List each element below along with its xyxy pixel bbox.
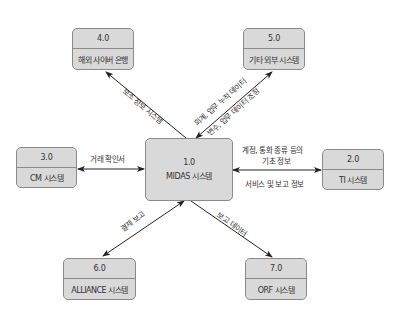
node-name: 기타 외부 시스템 <box>244 49 304 69</box>
node-2: 2.0 TI 시스템 <box>322 149 384 190</box>
node-name: 해외 사이버 은행 <box>73 49 133 69</box>
node-name: TI 시스템 <box>323 170 383 190</box>
node-name: ALLIANCE 시스템 <box>64 279 135 299</box>
node-number: 3.0 <box>17 148 76 168</box>
node-1-midas: 1.0 MIDAS 시스템 <box>145 138 233 201</box>
node-name: ORF 시스템 <box>246 279 306 299</box>
node-4: 4.0 해외 사이버 은행 <box>72 28 134 70</box>
node-3: 3.0 CM 시스템 <box>16 147 77 188</box>
edge-label-2-line2: 기초 정보 <box>262 155 290 166</box>
edge-label-2-bottom: 서비스 및 보고 정보 <box>245 178 304 189</box>
node-name: CM 시스템 <box>17 168 76 188</box>
edge-label-2-line1: 계정, 통화 종류 등의 <box>242 144 303 155</box>
node-number: 7.0 <box>246 259 306 279</box>
node-number: 2.0 <box>323 150 383 170</box>
center-number: 1.0 <box>183 156 195 170</box>
center-name: MIDAS 시스템 <box>166 170 212 184</box>
node-number: 6.0 <box>64 259 135 279</box>
node-5: 5.0 기타 외부 시스템 <box>243 28 305 70</box>
node-7: 7.0 ORF 시스템 <box>245 258 307 300</box>
arrow-1-6 <box>103 201 184 256</box>
node-6: 6.0 ALLIANCE 시스템 <box>63 258 136 300</box>
edge-label-3: 거래 확인서 <box>90 153 125 164</box>
node-number: 4.0 <box>73 29 133 49</box>
node-number: 5.0 <box>244 29 304 49</box>
